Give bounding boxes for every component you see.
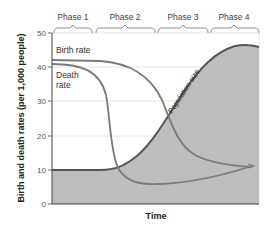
phase-4-label: Phase 4 <box>218 12 249 22</box>
birth-rate-label: Birth rate <box>56 45 91 55</box>
death-rate-label-line2: rate <box>56 80 71 90</box>
demographic-transition-chart: 50 40 30 20 10 0 Birth and death rates (… <box>0 0 274 232</box>
phase-braces <box>54 25 259 33</box>
y-tick-0: 0 <box>42 200 47 209</box>
y-tick-40: 40 <box>37 63 46 72</box>
y-tick-30: 30 <box>37 97 46 106</box>
y-tick-20: 20 <box>37 132 46 141</box>
y-tick-50: 50 <box>37 29 46 38</box>
phase-3-label: Phase 3 <box>167 12 198 22</box>
phase-1-label: Phase 1 <box>57 12 88 22</box>
y-axis-title: Birth and death rates (per 1,000 people) <box>16 33 26 202</box>
y-ticks <box>48 33 52 204</box>
death-rate-label-line1: Death <box>56 70 79 80</box>
x-axis-title: Time <box>146 211 167 221</box>
phase-2-label: Phase 2 <box>109 12 140 22</box>
y-tick-10: 10 <box>37 166 46 175</box>
